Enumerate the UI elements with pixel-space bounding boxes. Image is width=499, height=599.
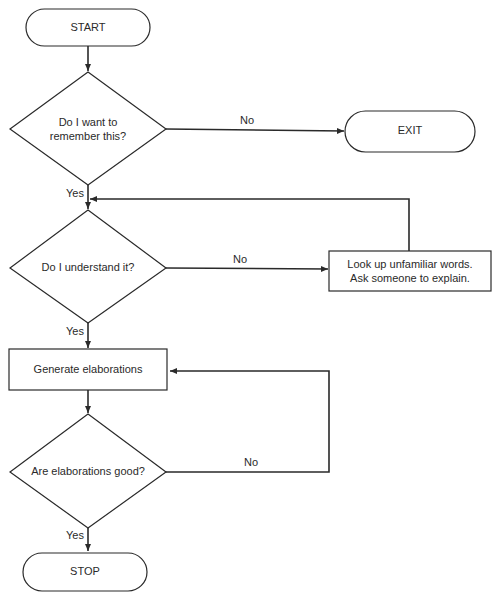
start-label: START bbox=[70, 21, 105, 33]
edge-label-good-yes: Yes bbox=[66, 529, 84, 541]
lookup-line2: Ask someone to explain. bbox=[347, 271, 472, 285]
good-question-label: Are elaborations good? bbox=[31, 465, 145, 477]
edge-label-good-no: No bbox=[244, 456, 258, 468]
arrow-understand-no-to-lookup bbox=[166, 268, 328, 269]
exit-label: EXIT bbox=[398, 124, 422, 136]
edge-label-understand-yes: Yes bbox=[66, 325, 84, 337]
flowchart-canvas bbox=[0, 0, 499, 599]
generate-process-label: Generate elaborations bbox=[34, 363, 143, 375]
understand-question-label: Do I understand it? bbox=[42, 261, 135, 273]
remember-question-line1: Do I want to bbox=[50, 115, 126, 129]
stop-label: STOP bbox=[70, 565, 100, 577]
lookup-line1: Look up unfamiliar words. bbox=[347, 257, 472, 271]
edge-label-remember-yes: Yes bbox=[66, 187, 84, 199]
edge-label-understand-no: No bbox=[233, 253, 247, 265]
remember-question-label: Do I want to remember this? bbox=[50, 115, 126, 143]
lookup-process-label: Look up unfamiliar words. Ask someone to… bbox=[347, 257, 472, 285]
arrow-lookup-loop-back bbox=[90, 199, 409, 251]
edge-label-remember-no: No bbox=[240, 114, 254, 126]
arrow-remember-no-to-exit bbox=[166, 129, 344, 131]
remember-question-line2: remember this? bbox=[50, 129, 126, 143]
